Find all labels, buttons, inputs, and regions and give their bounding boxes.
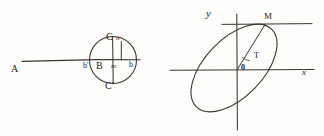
figure-root: A C n b' B m b C' y M (0, 0, 324, 136)
label-A: A (11, 64, 18, 74)
vertical-diameter-C-Cprime (113, 37, 114, 84)
label-C-top: C (106, 32, 113, 42)
tilted-ellipse (176, 9, 293, 127)
label-C-prime-bottom: C' (105, 81, 113, 91)
label-m: m (111, 63, 116, 70)
left-diagram-panel: A C n b' B m b C' (0, 0, 162, 136)
label-origin: 0 (241, 64, 245, 72)
y-axis-line (237, 14, 238, 130)
horizontal-guide-through-M (222, 24, 312, 25)
label-angle-T: T (254, 52, 259, 60)
label-B: B (96, 61, 103, 71)
label-b-right: b (129, 61, 133, 69)
label-point-M: M (264, 12, 272, 21)
left-diagram-svg (0, 0, 162, 136)
right-diagram-panel: y M T 0 x (162, 0, 324, 136)
label-x-axis: x (302, 68, 306, 77)
label-n: n (116, 35, 120, 42)
label-y-axis: y (206, 8, 211, 19)
label-b-prime: b' (83, 62, 88, 70)
baseline-A-to-b (22, 60, 140, 62)
